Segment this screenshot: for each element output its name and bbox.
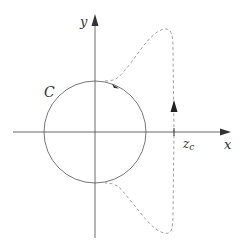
contour-diagram: y x C zc bbox=[0, 0, 243, 247]
deformed-contour-path bbox=[105, 29, 174, 233]
x-axis-label: x bbox=[224, 137, 232, 152]
x-axis-arrow-icon bbox=[220, 129, 231, 136]
contour-label: C bbox=[44, 84, 55, 100]
upward-direction-arrow-icon bbox=[171, 100, 178, 112]
zc-label: zc bbox=[182, 137, 194, 152]
y-axis-arrow-icon bbox=[92, 14, 99, 26]
zc-label-sub: c bbox=[189, 142, 194, 152]
y-axis-label: y bbox=[79, 14, 88, 29]
